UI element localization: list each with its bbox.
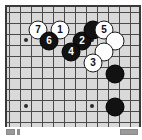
stone-label: 6 [46,36,52,46]
grid-hline [7,23,139,24]
footer-left-mark [6,129,15,135]
move-stone-4[interactable]: 4 [62,43,81,62]
star-point [24,38,28,42]
move-stone-6[interactable]: 6 [40,32,59,51]
stone-label: 3 [90,58,96,68]
grid-hline [7,122,139,123]
stone-label: 2 [79,36,85,46]
star-point [90,104,94,108]
stone-label: 4 [68,47,74,57]
footer-left-dot [17,129,20,135]
stone-label: 1 [57,25,63,35]
stone-label: 5 [101,25,107,35]
footer-right-mark [120,129,138,135]
stone-black[interactable] [106,98,125,117]
grid-hline [7,12,139,13]
star-point [24,104,28,108]
diagram-footer [0,126,142,140]
stone-label: 7 [35,25,41,35]
move-stone-3[interactable]: 3 [84,54,103,73]
go-diagram-root: 7162453 [0,0,142,140]
stone-black[interactable] [106,65,125,84]
grid-hline [7,89,139,90]
go-board[interactable]: 7162453 [5,5,141,127]
